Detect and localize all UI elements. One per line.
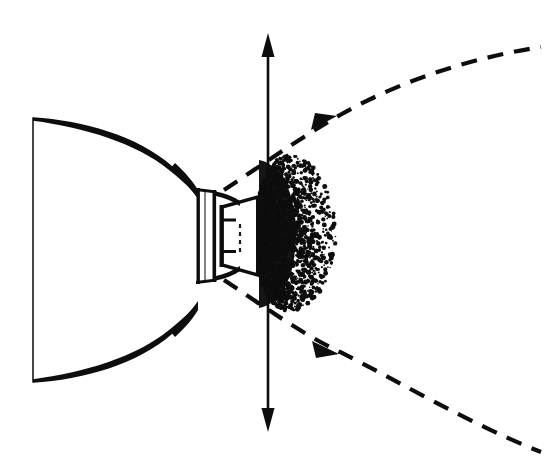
flared-bell-body xyxy=(33,117,198,383)
bell-upper-wall xyxy=(33,117,197,196)
collar-left-rim xyxy=(197,188,200,284)
nozzle-tick-upper xyxy=(223,219,236,222)
bell-upper-shoulder xyxy=(170,163,198,199)
diagram-canvas xyxy=(0,0,545,465)
nozzle-cone xyxy=(216,192,261,281)
throat-collar-ring xyxy=(196,188,217,284)
lower-dashed-boundary-curve xyxy=(224,280,541,452)
axis-arrowhead-up xyxy=(262,33,275,57)
axis-arrowhead-down xyxy=(262,408,275,432)
technical-figure xyxy=(0,0,545,465)
nozzle-back-wall xyxy=(220,205,224,267)
bell-lower-shoulder xyxy=(170,301,198,337)
collar-right-rim xyxy=(213,190,217,282)
bell-lower-wall xyxy=(33,304,197,383)
upper-boundary-arrowhead xyxy=(311,113,337,130)
nozzle-tick-lower xyxy=(223,250,236,253)
lower-boundary-path xyxy=(224,280,541,452)
